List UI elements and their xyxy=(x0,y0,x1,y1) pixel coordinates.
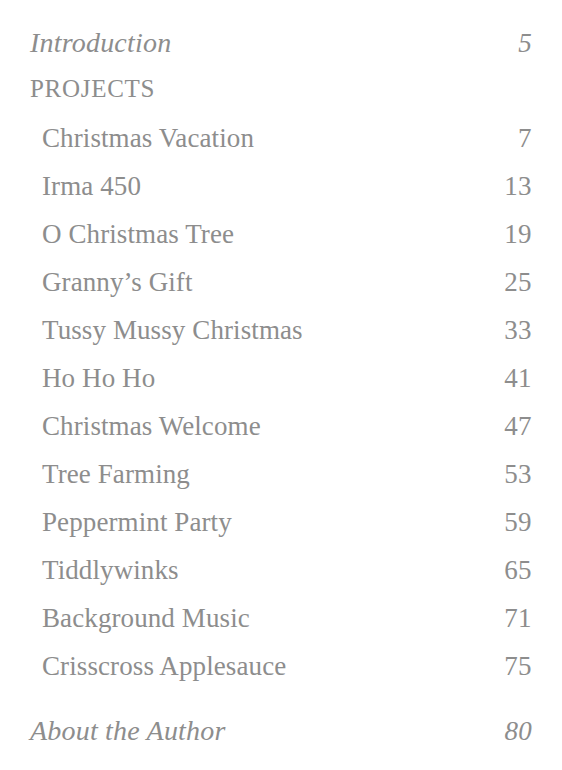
toc-entry-title: Crisscross Applesauce xyxy=(42,651,286,682)
top-margin-spacer xyxy=(0,0,562,27)
toc-entry-page-number: 80 xyxy=(488,716,532,747)
toc-entry-introduction[interactable]: Introduction 5 xyxy=(0,27,562,75)
back-matter-spacer xyxy=(0,699,562,715)
toc-entry-page-number: 59 xyxy=(488,507,532,538)
toc-entry-page-number: 75 xyxy=(488,651,532,682)
toc-entry-page-number: 7 xyxy=(488,123,532,154)
toc-list: Introduction 5 PROJECTS Christmas Vacati… xyxy=(0,0,562,763)
toc-entry[interactable]: Irma 45013 xyxy=(0,171,562,219)
toc-entry[interactable]: Crisscross Applesauce75 xyxy=(0,651,562,699)
toc-entry-page-number: 19 xyxy=(488,219,532,250)
toc-entry[interactable]: Christmas Vacation7 xyxy=(0,123,562,171)
toc-entry-title: Tiddlywinks xyxy=(42,555,179,586)
toc-entry[interactable]: Background Music71 xyxy=(0,603,562,651)
table-of-contents-page: Introduction 5 PROJECTS Christmas Vacati… xyxy=(0,0,562,770)
toc-entry[interactable]: Ho Ho Ho41 xyxy=(0,363,562,411)
toc-entry-title: Tussy Mussy Christmas xyxy=(42,315,303,346)
toc-entry[interactable]: Tussy Mussy Christmas33 xyxy=(0,315,562,363)
toc-entry-about-the-author[interactable]: About the Author 80 xyxy=(0,715,562,763)
toc-entry-group: Christmas Vacation7Irma 45013O Christmas… xyxy=(0,123,562,699)
toc-entry-title: Tree Farming xyxy=(42,459,190,490)
toc-entry-title: Background Music xyxy=(42,603,250,634)
toc-entry[interactable]: Tree Farming53 xyxy=(0,459,562,507)
toc-entry-page-number: 41 xyxy=(488,363,532,394)
toc-entry[interactable]: O Christmas Tree19 xyxy=(0,219,562,267)
toc-entry-title: Irma 450 xyxy=(42,171,141,202)
toc-entry[interactable]: Granny’s Gift25 xyxy=(0,267,562,315)
toc-entry-page-number: 25 xyxy=(488,267,532,298)
toc-entry[interactable]: Tiddlywinks65 xyxy=(0,555,562,603)
toc-entry-title: Granny’s Gift xyxy=(42,267,193,298)
toc-entry-page-number: 53 xyxy=(488,459,532,490)
toc-entry-page-number: 71 xyxy=(488,603,532,634)
toc-entry[interactable]: Peppermint Party59 xyxy=(0,507,562,555)
toc-entry-title: Peppermint Party xyxy=(42,507,232,538)
toc-entry-title: Introduction xyxy=(30,27,171,59)
toc-entry-title: Christmas Vacation xyxy=(42,123,254,154)
toc-entry-title: Christmas Welcome xyxy=(42,411,261,442)
toc-entry-title: O Christmas Tree xyxy=(42,219,234,250)
toc-entry-page-number: 5 xyxy=(488,28,532,59)
toc-entry-title: About the Author xyxy=(30,715,226,747)
toc-entry[interactable]: Christmas Welcome47 xyxy=(0,411,562,459)
toc-section-header-projects: PROJECTS xyxy=(0,75,562,123)
toc-section-label: PROJECTS xyxy=(30,75,155,103)
toc-entry-page-number: 13 xyxy=(488,171,532,202)
toc-entry-page-number: 65 xyxy=(488,555,532,586)
toc-entry-page-number: 33 xyxy=(488,315,532,346)
toc-entry-title: Ho Ho Ho xyxy=(42,363,155,394)
toc-entry-page-number: 47 xyxy=(488,411,532,442)
